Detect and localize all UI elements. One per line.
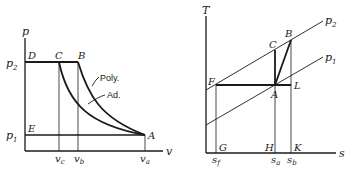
sa-label: sa: [271, 154, 280, 167]
p-axis-label: p: [22, 25, 29, 38]
point-E: E: [27, 123, 36, 134]
vc-label: vc: [55, 153, 65, 166]
p2-isobar: [206, 21, 323, 90]
ts-point-B: B: [284, 28, 292, 39]
ts-point-K: K: [293, 142, 302, 153]
va-label: va: [140, 153, 150, 166]
ts-point-G: G: [219, 142, 227, 153]
sf-label: sf: [212, 154, 221, 167]
ad-label: Ad.: [107, 90, 121, 100]
ts-point-C: C: [269, 39, 277, 50]
point-D: D: [27, 50, 36, 61]
isobar-p2-label: p2: [325, 14, 337, 29]
isobar-p1-label: p1: [325, 51, 337, 66]
thermo-diagrams: p v Poly. Ad. p2 p1 D C B E A vc vb va T…: [0, 0, 347, 173]
p1-isobar: [206, 57, 323, 125]
vb-label: vb: [74, 153, 85, 166]
ts-point-F: F: [207, 76, 216, 87]
poly-label: Poly.: [100, 73, 119, 83]
AB-line: [275, 40, 291, 85]
ts-diagram: T s p2 p1 C B F A L G H K sf sa sb: [202, 4, 345, 167]
point-B: B: [77, 50, 85, 61]
p1-label: p1: [6, 129, 18, 144]
pv-diagram: p v Poly. Ad. p2 p1 D C B E A vc vb va: [6, 25, 173, 166]
point-A: A: [147, 130, 155, 141]
poly-leader: [92, 77, 99, 86]
point-C: C: [55, 50, 63, 61]
sb-label: sb: [287, 154, 297, 167]
T-axis-label: T: [202, 4, 211, 17]
ts-point-L: L: [293, 80, 301, 91]
v-axis-label: v: [166, 145, 173, 158]
s-axis-label: s: [339, 147, 345, 160]
ts-point-A: A: [270, 89, 278, 100]
p2-label: p2: [6, 57, 18, 72]
ts-point-H: H: [264, 142, 274, 153]
